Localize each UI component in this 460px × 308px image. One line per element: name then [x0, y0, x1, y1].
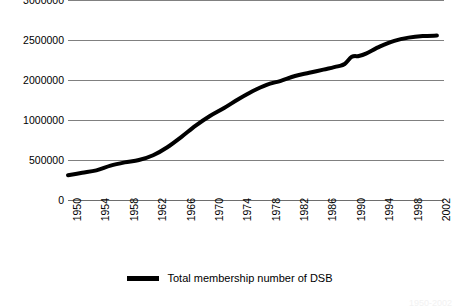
x-tick-label: 1998 — [413, 198, 424, 221]
x-tick-label: 1990 — [356, 198, 367, 221]
x-tick-label: 1954 — [100, 198, 111, 221]
legend-item-label: Total membership number of DSB — [167, 273, 332, 284]
y-tick-label: 0 — [58, 195, 64, 206]
series-layer — [68, 0, 444, 200]
x-tick-label: 1974 — [242, 198, 253, 221]
x-tick-label: 1986 — [327, 198, 338, 221]
x-tick-label: 1958 — [129, 198, 140, 221]
x-tick-label: 1950 — [72, 198, 83, 221]
y-tick-label: 2000000 — [23, 75, 64, 86]
y-tick-label: 500000 — [29, 155, 64, 166]
y-tick-label: 1000000 — [23, 115, 64, 126]
y-tick-label: 3000000 — [23, 0, 64, 5]
y-tick-label: 2500000 — [23, 35, 64, 46]
legend: Total membership number of DSB — [0, 268, 460, 288]
x-tick-label: 1962 — [157, 198, 168, 221]
bottom-caption: 1950-2002 — [409, 298, 452, 308]
x-tick-label: 2002 — [441, 198, 452, 221]
x-tick-label: 1978 — [271, 198, 282, 221]
plot-area: 05000001000000200000025000003000000 1950… — [0, 0, 460, 250]
legend-line-swatch — [127, 276, 159, 281]
y-axis: 05000001000000200000025000003000000 — [0, 0, 64, 200]
x-tick-label: 1966 — [186, 198, 197, 221]
series-line-total-membership — [68, 36, 437, 176]
x-tick-label: 1970 — [214, 198, 225, 221]
x-tick-label: 1994 — [384, 198, 395, 221]
legend-item-total-membership: Total membership number of DSB — [127, 273, 332, 284]
x-tick-label: 1982 — [299, 198, 310, 221]
x-axis: 1950195419581962196619701974197819821986… — [68, 198, 444, 248]
